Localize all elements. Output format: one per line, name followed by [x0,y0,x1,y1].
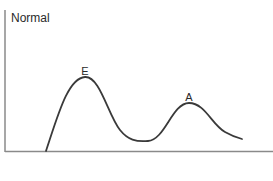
doppler-waveform-diagram: Normal E A [0,0,273,181]
peak-label-a: A [185,91,192,103]
peak-label-e: E [81,65,88,77]
waveform-plot [0,0,273,181]
diagram-title: Normal [11,11,50,25]
waveform-curve [46,77,242,151]
